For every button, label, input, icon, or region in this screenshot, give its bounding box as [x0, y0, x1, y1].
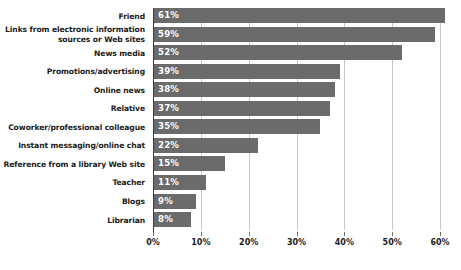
category-label: Online news	[0, 86, 149, 95]
bar-row[interactable]: 38%	[153, 82, 440, 97]
x-axis: 0%10%20%30%40%50%60%	[153, 232, 440, 258]
category-label: Reference from a library Web site	[0, 160, 149, 169]
category-label: Instant messaging/online chat	[0, 141, 149, 150]
x-tick-mark	[153, 232, 154, 236]
x-tick-label: 60%	[430, 238, 449, 247]
bar-row[interactable]: 8%	[153, 212, 440, 227]
x-tick-label: 20%	[239, 238, 258, 247]
x-tick-mark	[392, 232, 393, 236]
category-label: Coworker/professional colleague	[0, 123, 149, 132]
bar-value-label: 11%	[158, 175, 179, 190]
bar-value-label: 15%	[158, 156, 179, 171]
bar-value-label: 35%	[158, 119, 179, 134]
x-tick-label: 10%	[191, 238, 210, 247]
bar-value-label: 8%	[158, 212, 173, 227]
bar[interactable]	[153, 27, 435, 42]
category-label: Friend	[0, 12, 149, 21]
bar[interactable]	[153, 82, 335, 97]
bar-value-label: 39%	[158, 64, 179, 79]
bar-row[interactable]: 61%	[153, 8, 440, 23]
x-tick-label: 50%	[383, 238, 402, 247]
category-label: Librarian	[0, 216, 149, 225]
x-tick-mark	[344, 232, 345, 236]
x-tick-label: 30%	[287, 238, 306, 247]
gridline-60pct	[440, 8, 441, 230]
bar-row[interactable]: 37%	[153, 101, 440, 116]
bar-value-label: 37%	[158, 101, 179, 116]
horizontal-bar-chart: FriendLinks from electronic information …	[0, 0, 461, 270]
bar-value-label: 22%	[158, 138, 179, 153]
value-axis-line	[153, 8, 154, 232]
bar[interactable]	[153, 64, 340, 79]
bar-row[interactable]: 59%	[153, 27, 440, 42]
bar-value-label: 61%	[158, 8, 179, 23]
bar-value-label: 9%	[158, 194, 173, 209]
bar-value-label: 59%	[158, 27, 179, 42]
x-tick-label: 0%	[146, 238, 160, 247]
bar-row[interactable]: 15%	[153, 156, 440, 171]
category-label: News media	[0, 49, 149, 58]
bar-row[interactable]: 52%	[153, 45, 440, 60]
category-label: Links from electronic information source…	[0, 25, 149, 43]
bar[interactable]	[153, 8, 445, 23]
bar-row[interactable]: 39%	[153, 64, 440, 79]
x-tick-mark	[440, 232, 441, 236]
x-tick-mark	[201, 232, 202, 236]
bar[interactable]	[153, 101, 330, 116]
category-label: Teacher	[0, 178, 149, 187]
bar-row[interactable]: 9%	[153, 194, 440, 209]
category-label: Relative	[0, 104, 149, 113]
bar[interactable]	[153, 45, 402, 60]
plot-area: 61%59%52%39%38%37%35%22%15%11%9%8%	[153, 8, 440, 230]
bar-value-label: 52%	[158, 45, 179, 60]
bar-row[interactable]: 35%	[153, 119, 440, 134]
x-tick-mark	[249, 232, 250, 236]
x-tick-mark	[297, 232, 298, 236]
bar-row[interactable]: 22%	[153, 138, 440, 153]
bar-value-label: 38%	[158, 82, 179, 97]
category-label: Blogs	[0, 197, 149, 206]
category-label: Promotions/advertising	[0, 67, 149, 76]
x-tick-label: 40%	[335, 238, 354, 247]
bar-row[interactable]: 11%	[153, 175, 440, 190]
